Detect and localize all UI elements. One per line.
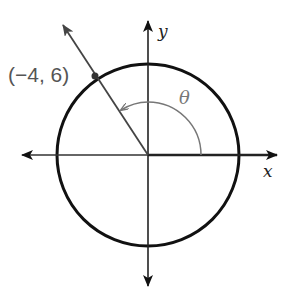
- unit-circle-diagram: (−4, 6) θ x y: [0, 0, 290, 297]
- angle-arc: [121, 102, 201, 155]
- x-axis-label: x: [263, 161, 273, 181]
- point-marker: [92, 73, 99, 80]
- angle-label: θ: [179, 87, 190, 108]
- terminal-ray: [63, 25, 148, 155]
- y-axis-label: y: [157, 21, 168, 41]
- point-label: (−4, 6): [8, 63, 69, 86]
